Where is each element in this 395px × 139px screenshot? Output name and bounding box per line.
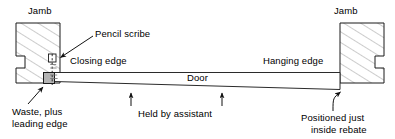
closing-edge-label: Closing edge [70, 55, 127, 67]
held-by-assistant-label: Held by assistant [138, 108, 212, 120]
positioned-label-line1: Positioned just [301, 112, 364, 124]
door-label: Door [187, 72, 208, 84]
waste-label-line1: Waste, plus [12, 106, 62, 118]
jamb-left-label: Jamb [28, 5, 52, 17]
jamb-right-group [340, 23, 384, 83]
waste-block [44, 73, 55, 84]
hanging-edge-label: Hanging edge [263, 55, 323, 67]
waste-label-line2: leading edge [12, 118, 68, 130]
positioned-label-line2: inside rebate [311, 124, 367, 136]
jamb-right-body [340, 23, 384, 83]
positioned-leader-icon [333, 92, 341, 111]
pencil-scribe-label: Pencil scribe [95, 28, 150, 40]
jamb-right-label: Jamb [334, 5, 358, 17]
waste-leader-icon [28, 87, 43, 104]
waste-block-group [44, 73, 55, 84]
door-hanging-diagram: Jamb Jamb Pencil scribe Closing edge Han… [0, 0, 395, 139]
